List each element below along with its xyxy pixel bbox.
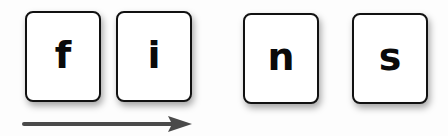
letter-card-f: f	[25, 11, 101, 102]
card-letter: f	[55, 36, 72, 74]
letter-card-n: n	[243, 13, 319, 104]
card-letter: i	[147, 36, 160, 74]
card-letter: n	[267, 38, 294, 76]
right-arrow-icon	[22, 113, 194, 135]
letter-card-s: s	[352, 13, 428, 104]
card-letter: s	[379, 38, 402, 76]
letter-card-i: i	[116, 11, 192, 102]
